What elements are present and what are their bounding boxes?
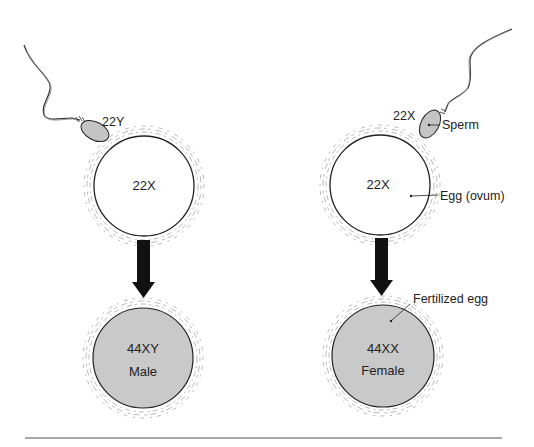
left-sperm: 22Y bbox=[24, 45, 125, 146]
right-arrow-shaft bbox=[375, 238, 388, 281]
right-sperm-label: 22X bbox=[393, 109, 416, 123]
left-fertilized-egg bbox=[93, 308, 193, 408]
left-sperm-label: 22Y bbox=[102, 115, 125, 129]
right-arrow bbox=[370, 238, 393, 296]
left-sperm-midpiece bbox=[76, 116, 85, 122]
right-fertilized-egg-group: 44XX Female bbox=[323, 296, 443, 416]
left-fertilized-egg-group: 44XY Male bbox=[83, 298, 203, 418]
left-egg-group: 22X bbox=[84, 126, 204, 246]
right-egg-group: 22X bbox=[320, 125, 440, 245]
left-arrow bbox=[132, 240, 155, 298]
right-arrow-head bbox=[370, 280, 393, 296]
left-sperm-tail bbox=[24, 45, 80, 120]
fertilized-callout-label: Fertilized egg bbox=[413, 292, 488, 306]
left-genotype-label: 44XY bbox=[127, 341, 159, 356]
right-egg-label: 22X bbox=[366, 177, 389, 192]
fertilization-diagram: 22X 22Y 44XY Male 22X 22X Sperm bbox=[0, 0, 534, 447]
left-egg-label: 22X bbox=[132, 178, 155, 193]
right-genotype-label: 44XX bbox=[367, 341, 399, 356]
left-sex-label: Male bbox=[129, 364, 157, 379]
right-sex-label: Female bbox=[361, 363, 404, 378]
left-arrow-shaft bbox=[137, 240, 150, 283]
right-fertilized-egg bbox=[332, 305, 434, 407]
left-arrow-head bbox=[132, 282, 155, 298]
sperm-callout-label: Sperm bbox=[442, 118, 479, 132]
egg-callout-label: Egg (ovum) bbox=[440, 189, 505, 203]
right-sperm-tail bbox=[445, 29, 512, 112]
